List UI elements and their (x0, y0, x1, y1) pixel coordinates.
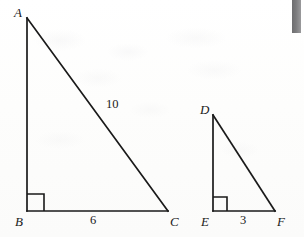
side-label-hypotenuse-abc: 10 (106, 98, 119, 111)
vertex-label-c: C (170, 215, 179, 228)
side-label-base-abc: 6 (90, 214, 96, 227)
vertex-label-b: B (15, 215, 23, 228)
large-triangle-abc (27, 18, 168, 211)
page-edge-strip (292, 0, 301, 33)
right-angle-marker-b (27, 194, 44, 211)
right-angle-marker-e (213, 197, 227, 211)
segment-ac-hypotenuse (27, 18, 168, 211)
vertex-label-a: A (14, 6, 22, 19)
vertex-label-d: D (200, 103, 209, 116)
small-triangle-def (213, 115, 275, 211)
geometry-figure: A B C D E F 10 6 3 (0, 0, 304, 237)
vertex-label-f: F (277, 215, 285, 228)
triangles-drawing (0, 0, 304, 237)
side-label-base-def: 3 (240, 214, 246, 227)
vertex-label-e: E (201, 215, 209, 228)
